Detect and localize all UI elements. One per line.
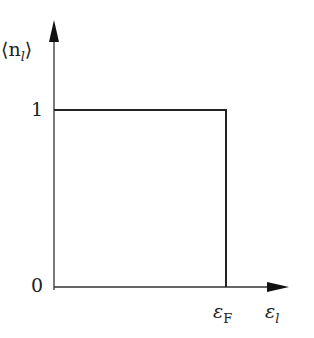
occupation-step-line: [54, 110, 226, 287]
y-axis-arrow-icon: [49, 20, 59, 42]
step-function-diagram: [0, 0, 314, 338]
x-axis-arrow-icon: [267, 282, 289, 292]
y-tick-one: 1: [31, 98, 43, 120]
x-axis-label: εl: [265, 300, 279, 326]
y-axis-label: ⟨nl⟩: [1, 38, 32, 64]
y-tick-zero: 0: [31, 274, 43, 296]
x-tick-fermi-energy: εF: [213, 300, 232, 326]
